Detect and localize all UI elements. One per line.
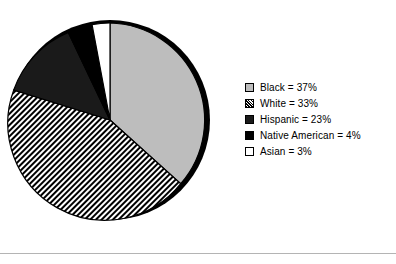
page-divider-rule [0,253,396,254]
legend-swatch-white [245,99,254,108]
legend-label-asian: Asian = 3% [260,146,312,157]
legend-item-hispanic: Hispanic = 23% [245,112,361,126]
legend-item-asian: Asian = 3% [245,144,361,158]
legend-item-black: Black = 37% [245,80,361,94]
pie-chart-figure: Black = 37% White = 33% Hispanic = 23% N… [0,0,396,264]
pie-svg [6,14,218,228]
legend-label-native-american: Native American = 4% [260,130,361,141]
legend-item-native-american: Native American = 4% [245,128,361,142]
legend-item-white: White = 33% [245,96,361,110]
legend-swatch-asian [245,147,254,156]
legend-swatch-native-american [245,131,254,140]
legend-label-black: Black = 37% [260,82,317,93]
pie-chart-graphic [6,14,218,228]
legend-label-white: White = 33% [260,98,318,109]
legend-swatch-black [245,83,254,92]
chart-legend: Black = 37% White = 33% Hispanic = 23% N… [245,80,361,158]
legend-swatch-hispanic [245,115,254,124]
legend-label-hispanic: Hispanic = 23% [260,114,331,125]
